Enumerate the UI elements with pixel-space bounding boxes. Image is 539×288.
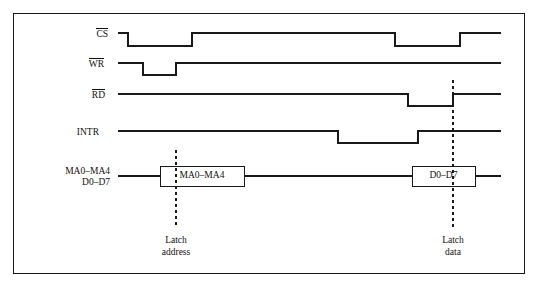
signal-label-rd-text: RD [92,89,105,100]
timing-diagram-page: CS WR RD INTR MA0–MA4 D0–D7 MA0–MA4 D0–D… [0,0,539,288]
latch-address-caption-line2: address [136,246,216,258]
bus-box-label-data: D0–D7 [412,170,475,180]
bus-box-label-address: MA0–MA4 [160,170,244,180]
latch-data-caption-line1: Latch [413,234,493,246]
signal-label-cs-text: CS [96,28,108,39]
latch-address-caption-line1: Latch [136,234,216,246]
signal-label-wr-text: WR [89,58,104,69]
waveform-wr [118,63,501,75]
signal-label-bus-line1: MA0–MA4 [42,166,110,177]
signal-label-rd: RD [82,89,105,101]
signal-label-bus-line2: D0–D7 [42,177,110,188]
signal-label-wr: WR [80,58,104,70]
latch-marker-group [176,80,453,228]
signal-waveform-group [118,33,501,143]
latch-address-caption: Latch address [136,234,216,258]
latch-data-caption-line2: data [413,246,493,258]
waveform-rd [118,94,501,106]
signal-label-bus: MA0–MA4 D0–D7 [42,166,110,188]
signal-label-intr: INTR [70,127,99,138]
waveform-cs [118,33,501,46]
signal-label-cs: CS [88,28,108,40]
signal-label-intr-text: INTR [77,127,99,137]
waveform-intr [118,131,501,143]
latch-data-caption: Latch data [413,234,493,258]
